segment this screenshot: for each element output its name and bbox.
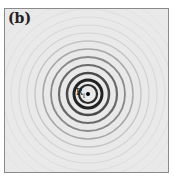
panel-label: (b) xyxy=(8,10,31,26)
source-label: RI xyxy=(76,87,85,99)
concentric-rings xyxy=(5,9,169,173)
source-label-main: R xyxy=(76,87,83,97)
source-label-sub: I xyxy=(83,92,85,99)
source-dot xyxy=(86,92,90,96)
diffraction-panel: (b) RI xyxy=(4,8,169,173)
